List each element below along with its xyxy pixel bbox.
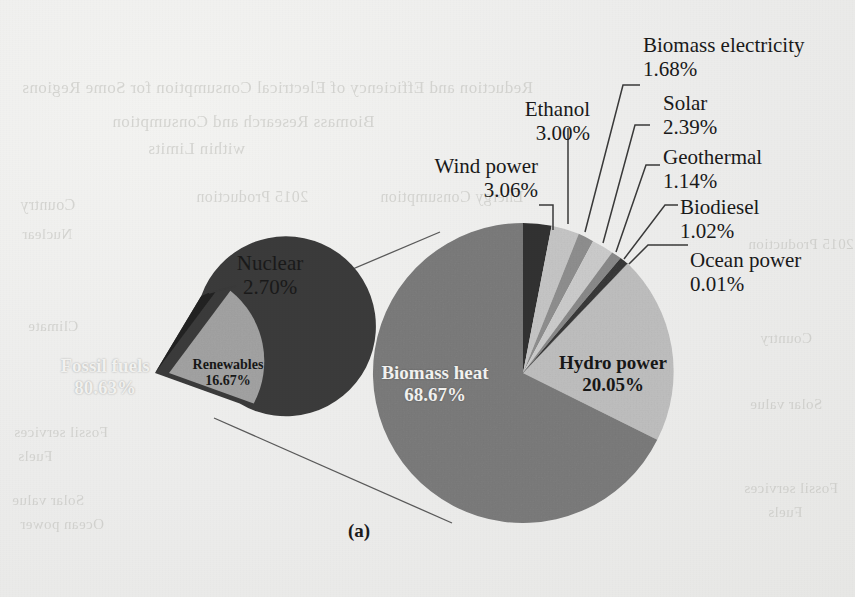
slice-label-geothermal: Geothermal 1.14% — [663, 146, 762, 193]
slice-label-wind-power: Wind power 3.06% — [388, 155, 538, 202]
slice-label-nuclear-value: 2.70% — [210, 276, 330, 300]
slice-label-wind-power-name: Wind power — [388, 155, 538, 179]
slice-label-solar-value: 2.39% — [663, 116, 717, 140]
slice-label-ocean-power-name: Ocean power — [690, 249, 801, 273]
slice-label-biomass-electricity: Biomass electricity 1.68% — [643, 34, 805, 81]
figure-caption: (a) — [348, 520, 370, 542]
slice-label-solar-name: Solar — [663, 92, 717, 116]
slice-label-biodiesel-name: Biodiesel — [680, 196, 759, 220]
slice-label-geothermal-value: 1.14% — [663, 170, 762, 194]
slice-label-hydro-power-name: Hydro power — [528, 352, 698, 374]
slice-label-biomass-heat: Biomass heat 68.67% — [340, 362, 530, 405]
slice-label-renewables-value: 16.67% — [158, 373, 298, 389]
slice-label-solar: Solar 2.39% — [663, 92, 717, 139]
slice-label-nuclear: Nuclear 2.70% — [210, 252, 330, 299]
slice-label-hydro-power-value: 20.05% — [528, 374, 698, 396]
slice-label-biomass-electricity-value: 1.68% — [643, 58, 805, 82]
leader-line-geothermal — [616, 165, 660, 252]
leader-line-solar — [603, 125, 650, 243]
slice-label-geothermal-name: Geothermal — [663, 146, 762, 170]
slice-label-hydro-power: Hydro power 20.05% — [528, 352, 698, 395]
slice-label-ocean-power-value: 0.01% — [690, 273, 801, 297]
slice-label-biomass-electricity-name: Biomass electricity — [643, 34, 805, 58]
slice-label-renewables-name: Renewables — [158, 357, 298, 373]
slice-label-biodiesel: Biodiesel 1.02% — [680, 196, 759, 243]
slice-label-biomass-heat-value: 68.67% — [340, 384, 530, 406]
leader-line-ocean-power — [629, 245, 688, 264]
slice-label-wind-power-value: 3.06% — [388, 179, 538, 203]
slice-label-ethanol: Ethanol 3.00% — [480, 98, 590, 145]
leader-line-biodiesel — [624, 205, 678, 259]
slice-label-ocean-power: Ocean power 0.01% — [690, 249, 801, 296]
pie-chart-svg — [0, 0, 855, 597]
slice-label-biomass-heat-name: Biomass heat — [340, 362, 530, 384]
slice-label-biodiesel-value: 1.02% — [680, 220, 759, 244]
slice-label-ethanol-value: 3.00% — [480, 122, 590, 146]
slice-label-nuclear-name: Nuclear — [210, 252, 330, 276]
two-pie-figure — [0, 0, 855, 597]
slice-label-renewables: Renewables 16.67% — [158, 357, 298, 389]
slice-label-ethanol-name: Ethanol — [480, 98, 590, 122]
